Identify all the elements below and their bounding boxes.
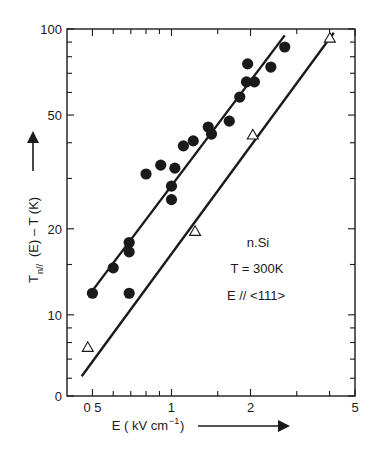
data-point-filled-circle bbox=[155, 160, 166, 171]
x-tick-label: 0 5 bbox=[83, 400, 101, 415]
x-axis-title-sup: −1 bbox=[169, 416, 179, 426]
y-tick-label: 50 bbox=[48, 108, 62, 123]
x-tick-label: 1 bbox=[168, 400, 175, 415]
x-axis-title: E ( kV cm −1 ) bbox=[112, 416, 290, 433]
y-axis-title-sub: n// bbox=[35, 263, 45, 274]
data-point-filled-circle bbox=[224, 116, 235, 127]
fit-lines bbox=[82, 33, 334, 376]
y-axis-title-rest: (E) – T (K) bbox=[26, 197, 41, 257]
data-point-filled-circle bbox=[169, 163, 180, 174]
y-axis-arrow-icon bbox=[27, 131, 39, 143]
data-point-filled-circle bbox=[279, 41, 290, 52]
y-axis-title: T n// (E) – T (K) bbox=[26, 131, 45, 283]
data-point-filled-circle bbox=[206, 128, 217, 139]
fit-line-open-triangles bbox=[82, 33, 334, 376]
axis-ticks: 0 51250102050100 bbox=[40, 22, 358, 415]
y-tick-label: 20 bbox=[48, 222, 62, 237]
fit-line-filled-circles bbox=[94, 35, 285, 289]
data-point-filled-circle bbox=[265, 61, 276, 72]
y-tick-label: 100 bbox=[40, 22, 62, 37]
y-axis-title-main: T bbox=[26, 275, 41, 283]
y-tick-label: 10 bbox=[48, 308, 62, 323]
annotation-temperature: T = 300K bbox=[231, 261, 284, 276]
x-axis-arrow-icon bbox=[278, 420, 290, 432]
data-point-filled-circle bbox=[124, 246, 135, 257]
data-point-filled-circle bbox=[234, 91, 245, 102]
annotation-field-direction: E // <111> bbox=[227, 288, 285, 303]
data-point-filled-circle bbox=[249, 76, 260, 87]
data-point-filled-circle bbox=[242, 58, 253, 69]
data-point-open-triangle bbox=[82, 342, 93, 352]
x-axis-title-rest: ) bbox=[180, 418, 184, 433]
chart: 0 51250102050100 n.Si T = 300K E // <111… bbox=[0, 0, 375, 452]
data-point-filled-circle bbox=[124, 288, 135, 299]
data-point-filled-circle bbox=[140, 168, 151, 179]
data-point-filled-circle bbox=[188, 135, 199, 146]
data-point-filled-circle bbox=[166, 194, 177, 205]
data-point-filled-circle bbox=[87, 288, 98, 299]
data-point-filled-circle bbox=[108, 262, 119, 273]
x-tick-label: 2 bbox=[247, 400, 254, 415]
data-point-filled-circle bbox=[178, 140, 189, 151]
data-point-open-triangle bbox=[247, 129, 258, 139]
plot-area-border bbox=[67, 29, 355, 396]
y-tick-label: 0 bbox=[55, 389, 62, 404]
data-point-filled-circle bbox=[166, 181, 177, 192]
plot-frame bbox=[67, 29, 355, 396]
annotation-material: n.Si bbox=[247, 235, 270, 250]
x-axis-title-main: E ( kV cm bbox=[112, 418, 168, 433]
x-tick-label: 5 bbox=[351, 400, 358, 415]
